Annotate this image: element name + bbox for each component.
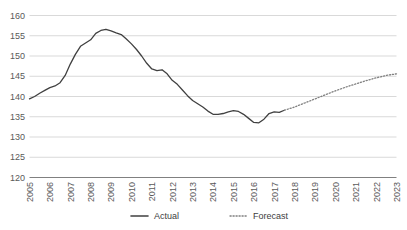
x-axis-tick-label: 2012 bbox=[168, 182, 178, 202]
x-axis-tick-label: 2022 bbox=[372, 182, 382, 202]
x-axis-tick-label: 2021 bbox=[351, 182, 361, 202]
x-axis-tick-label: 2017 bbox=[270, 182, 280, 202]
line-chart: 120125130135140145150155160 200520062007… bbox=[0, 0, 407, 230]
x-axis-tick-label: 2005 bbox=[25, 182, 35, 202]
x-axis-tick-label: 2014 bbox=[208, 182, 218, 202]
y-axis-tick-labels: 120125130135140145150155160 bbox=[10, 11, 25, 183]
y-axis-tick-label: 120 bbox=[10, 173, 25, 183]
chart-plot-area: 120125130135140145150155160 200520062007… bbox=[0, 0, 407, 230]
x-axis-tick-label: 2018 bbox=[290, 182, 300, 202]
x-axis-tick-label: 2015 bbox=[229, 182, 239, 202]
x-axis-tick-label: 2006 bbox=[45, 182, 55, 202]
y-axis-tick-label: 130 bbox=[10, 132, 25, 142]
series-line-forecast bbox=[284, 74, 396, 110]
y-axis-tick-label: 125 bbox=[10, 152, 25, 162]
gridlines bbox=[30, 16, 397, 178]
x-axis-tick-label: 2020 bbox=[331, 182, 341, 202]
x-axis-tick-labels: 2005200620072008200920102011201220132014… bbox=[25, 182, 402, 202]
x-axis-tick-label: 2019 bbox=[310, 182, 320, 202]
y-axis-tick-label: 155 bbox=[10, 31, 25, 41]
x-axis-tick-label: 2009 bbox=[106, 182, 116, 202]
legend-label-forecast: Forecast bbox=[253, 211, 289, 221]
chart-legend: ActualForecast bbox=[131, 211, 289, 221]
y-axis-tick-label: 160 bbox=[10, 11, 25, 21]
y-axis-tick-label: 150 bbox=[10, 51, 25, 61]
y-axis-tick-label: 135 bbox=[10, 112, 25, 122]
legend-label-actual: Actual bbox=[154, 211, 179, 221]
x-axis-tick-label: 2016 bbox=[249, 182, 259, 202]
x-axis-tick-label: 2023 bbox=[392, 182, 402, 202]
y-axis-tick-label: 145 bbox=[10, 71, 25, 81]
x-axis-tick-label: 2010 bbox=[127, 182, 137, 202]
y-axis-tick-label: 140 bbox=[10, 92, 25, 102]
x-axis-tick-label: 2011 bbox=[147, 182, 157, 201]
x-axis-tick-label: 2008 bbox=[86, 182, 96, 202]
x-axis-tick-label: 2007 bbox=[66, 182, 76, 202]
x-axis-tick-label: 2013 bbox=[188, 182, 198, 202]
